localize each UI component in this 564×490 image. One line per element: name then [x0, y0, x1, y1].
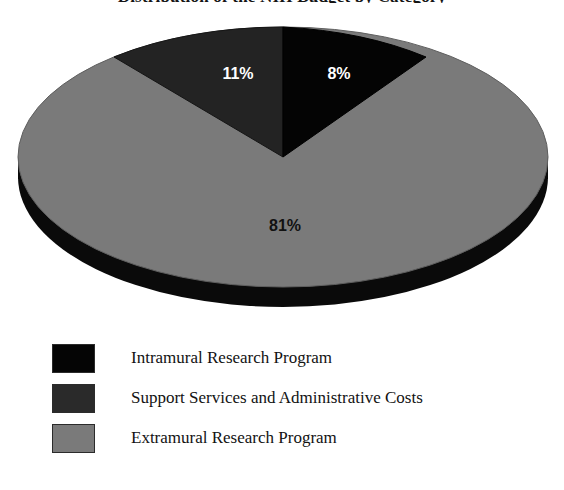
legend-label-extramural: Extramural Research Program	[131, 429, 337, 448]
pie-label-extramural: 81%	[269, 217, 301, 234]
legend-swatch-support	[52, 384, 95, 413]
legend-item-intramural[interactable]: Intramural Research Program	[52, 338, 522, 378]
chart-legend: Intramural Research Program Support Serv…	[52, 338, 522, 458]
pie-chart-svg: 11% 8% 81%	[0, 0, 564, 320]
chart-page: Distribution of the NIH Budget by Catego…	[0, 0, 564, 490]
legend-item-support[interactable]: Support Services and Administrative Cost…	[52, 378, 522, 418]
legend-label-intramural: Intramural Research Program	[131, 349, 332, 368]
pie-label-intramural: 8%	[327, 65, 350, 82]
legend-item-extramural[interactable]: Extramural Research Program	[52, 418, 522, 458]
pie-label-support: 11%	[222, 65, 253, 82]
legend-swatch-extramural	[52, 424, 95, 453]
legend-swatch-intramural	[52, 344, 95, 373]
pie-slices	[18, 27, 548, 287]
legend-label-support: Support Services and Administrative Cost…	[131, 389, 423, 408]
pie-chart-figure: 11% 8% 81%	[0, 0, 564, 320]
